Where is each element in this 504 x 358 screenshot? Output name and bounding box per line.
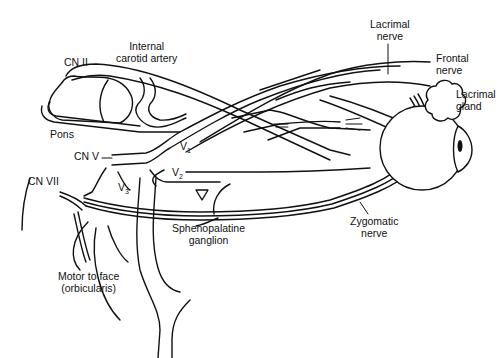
zygomatic-line1: Zygomatic [350,215,398,227]
cn-v-text: CN V [74,150,99,162]
label-zygomatic-nerve: Zygomatic nerve [350,215,398,239]
label-v1: V1 [180,140,191,154]
cn-ii-text: CN II [64,56,88,68]
label-internal-carotid-artery: Internal carotid artery [116,40,177,64]
motor-line2: (orbicularis) [58,282,119,294]
sphenopalatine-line1: Sphenopalatine [172,222,245,234]
pons-shape [42,76,181,132]
lacrimal-gland-line2: gland [456,100,496,112]
frontal-nerve-line2: nerve [436,64,469,76]
v1-text: V [180,140,187,152]
label-cn-ii: CN II [64,56,88,68]
v3-subscript: 3 [125,188,129,195]
nerve-diagram: CN II Internal carotid artery Pons CN V … [0,0,504,358]
internal-carotid-line1: Internal [116,40,177,52]
lacrimal-gland-line1: Lacrimal [456,88,496,100]
v2-text: V [172,166,179,178]
label-motor-to-face: Motor to face (orbicularis) [58,270,119,294]
diagram-drawing [0,0,504,358]
label-frontal-nerve: Frontal nerve [436,52,469,76]
label-sphenopalatine-ganglion: Sphenopalatine ganglion [172,222,245,246]
v2-zygomatic-pathway [84,94,429,226]
label-cn-vii: CN VII [28,175,59,187]
sphenopalatine-line2: ganglion [172,234,245,246]
internal-carotid-line2: carotid artery [116,52,177,64]
v3-text: V [118,181,125,193]
label-v3: V3 [118,181,129,195]
lacrimal-nerve-line1: Lacrimal [370,18,410,30]
frontal-nerve-line1: Frontal [436,52,469,64]
label-v2: V2 [172,166,183,180]
label-lacrimal-nerve: Lacrimal nerve [370,18,410,42]
cn-vii-text: CN VII [28,175,59,187]
zygomatic-line2: nerve [350,227,398,239]
lacrimal-nerve-line2: nerve [370,30,410,42]
internal-carotid-artery [136,78,190,358]
motor-line1: Motor to face [58,270,119,282]
pons-text: Pons [50,128,74,140]
label-pons: Pons [50,128,74,140]
v1-subscript: 1 [187,147,191,154]
v2-subscript: 2 [179,173,183,180]
eye-globe [380,106,472,190]
label-lacrimal-gland: Lacrimal gland [456,88,496,112]
cn-vii-nerve [22,178,128,320]
label-cn-v: CN V [74,150,99,162]
